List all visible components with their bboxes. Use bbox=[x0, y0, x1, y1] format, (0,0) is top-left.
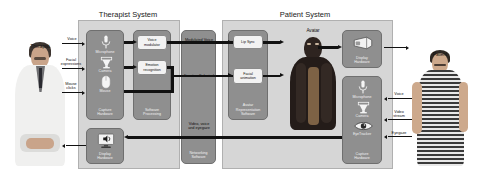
arrow-therapist-facial bbox=[62, 68, 82, 69]
microphone-icon bbox=[99, 35, 113, 50]
therapist-display-hardware-label: Display Hardware bbox=[87, 152, 123, 160]
networking-software[interactable]: Networking Software bbox=[181, 30, 216, 164]
therapist-mouse-label: Mouse bbox=[87, 89, 123, 93]
arrow-patient-voice bbox=[388, 98, 412, 99]
patient-photo bbox=[412, 48, 468, 166]
patient-capture-hardware[interactable]: Microphone Camera EyeTracker Capture Har… bbox=[342, 76, 382, 164]
arrow-avatar-to-display bbox=[318, 46, 338, 49]
arrowhead-avatar-to-display bbox=[338, 45, 342, 49]
mouse-icon bbox=[101, 75, 111, 89]
arrowhead-patient-voice bbox=[384, 97, 387, 101]
arrowhead-camera-to-emotion bbox=[133, 65, 137, 69]
arrow-mouse-path-h1 bbox=[124, 90, 174, 93]
therapist-capture-hardware[interactable]: Microphone Camera Mouse Capture Hardware bbox=[86, 30, 124, 120]
arrowhead-display-to-patient bbox=[406, 46, 409, 50]
patient-capture-hardware-label: Capture Hardware bbox=[343, 152, 381, 160]
emotion-recognition-module[interactable]: Emotion recognition bbox=[137, 60, 167, 75]
eye-icon bbox=[354, 120, 373, 132]
therapist-display-hardware[interactable]: Display Hardware bbox=[86, 128, 124, 164]
arrowhead-return-bus bbox=[124, 135, 128, 139]
microphone-icon bbox=[356, 80, 370, 95]
therapist-microphone-label: Microphone bbox=[87, 50, 123, 54]
facial-animation-module[interactable]: Facial animation bbox=[233, 68, 263, 84]
arrow-mic-to-voicemod bbox=[124, 41, 133, 44]
emotion-recognition-label: Emotion recognition bbox=[143, 63, 161, 71]
arrowhead-voice bbox=[82, 42, 85, 46]
arrowhead-lipsync-to-avatar bbox=[280, 40, 284, 44]
lip-sync-module[interactable]: Lip Sync bbox=[233, 35, 263, 49]
arrow-modulated-voice bbox=[167, 41, 233, 44]
arrowhead-facial bbox=[82, 67, 85, 71]
lip-sync-label: Lip Sync bbox=[241, 40, 255, 44]
patient-display-hardware[interactable]: Display Hardware bbox=[342, 30, 382, 68]
arrow-emotion-selected bbox=[174, 75, 233, 78]
voice-modulator-module[interactable]: Voice modulator bbox=[137, 35, 167, 50]
arrow-emotion-out bbox=[167, 66, 174, 69]
channel-video-voice-eyegaze: Video, voice and eyegaze bbox=[180, 122, 218, 131]
networking-software-label: Networking Software bbox=[182, 151, 215, 159]
arrow-patient-video bbox=[388, 119, 412, 120]
therapist-input-voice: Voice bbox=[60, 37, 84, 41]
arrow-display-to-therapist bbox=[66, 145, 86, 146]
arrow-display-to-patient bbox=[384, 47, 406, 48]
therapist-label: Therapist bbox=[16, 44, 64, 49]
avatar-figure bbox=[288, 37, 338, 130]
arrow-return-bus bbox=[128, 136, 342, 139]
arrow-lipsync-to-avatar bbox=[263, 41, 280, 44]
arrow-therapist-mouse bbox=[62, 92, 82, 93]
patient-input-eyegaze: Eyegaze bbox=[386, 131, 412, 135]
monitor-speaker-icon bbox=[97, 133, 115, 149]
patient-label: Patient bbox=[414, 52, 466, 57]
arrowhead-facialanim-to-avatar bbox=[280, 73, 284, 77]
arrowhead-modulated-voice bbox=[228, 40, 232, 44]
arrow-facialanim-to-avatar bbox=[263, 75, 280, 78]
avatar-representation-software-label: Avatar Representation Software bbox=[229, 103, 267, 116]
patient-microphone-label: Microphone bbox=[343, 95, 381, 99]
therapist-system-title: Therapist System bbox=[78, 10, 178, 19]
arrowhead-mouse bbox=[82, 91, 85, 95]
avatar-label: Avatar bbox=[288, 28, 338, 33]
arrow-therapist-voice bbox=[62, 43, 82, 44]
patient-eyetracker-label: EyeTracker bbox=[343, 132, 381, 136]
arrow-emotion-selected-riser bbox=[171, 75, 174, 91]
therapist-input-mouse: Mouse clicks bbox=[58, 82, 84, 91]
patient-display-hardware-label: Display Hardware bbox=[343, 56, 381, 64]
arrowhead-display-to-therapist bbox=[62, 144, 65, 148]
patient-input-voice: Voice bbox=[386, 92, 412, 96]
patient-camera-label: Camera bbox=[343, 114, 381, 118]
diagram-canvas: Therapist System Patient System Therapis… bbox=[0, 0, 480, 181]
therapist-camera-label: Camera bbox=[87, 69, 123, 73]
software-processing-label: Software Processing bbox=[134, 108, 170, 116]
arrow-patient-eyegaze bbox=[388, 136, 412, 137]
arrow-camera-to-emotion bbox=[124, 66, 133, 69]
voice-modulator-label: Voice modulator bbox=[144, 38, 160, 46]
hmd-icon bbox=[352, 35, 374, 51]
therapist-input-facial: Facial expressions bbox=[58, 58, 84, 67]
camera-icon bbox=[98, 56, 115, 69]
facial-animation-label: Facial animation bbox=[240, 72, 256, 80]
patient-system-title: Patient System bbox=[240, 10, 370, 19]
patient-input-video: Video stream bbox=[386, 110, 412, 119]
arrowhead-mic-to-voicemod bbox=[133, 40, 137, 44]
arrowhead-emotion-selected bbox=[228, 73, 232, 77]
therapist-capture-hardware-label: Capture Hardware bbox=[87, 108, 123, 116]
camera-icon bbox=[355, 101, 372, 114]
